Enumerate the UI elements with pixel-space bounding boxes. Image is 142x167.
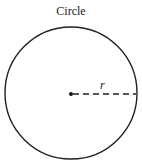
- radius-label: r: [100, 78, 105, 92]
- circle-diagram: r: [0, 0, 142, 167]
- center-point: [69, 92, 73, 96]
